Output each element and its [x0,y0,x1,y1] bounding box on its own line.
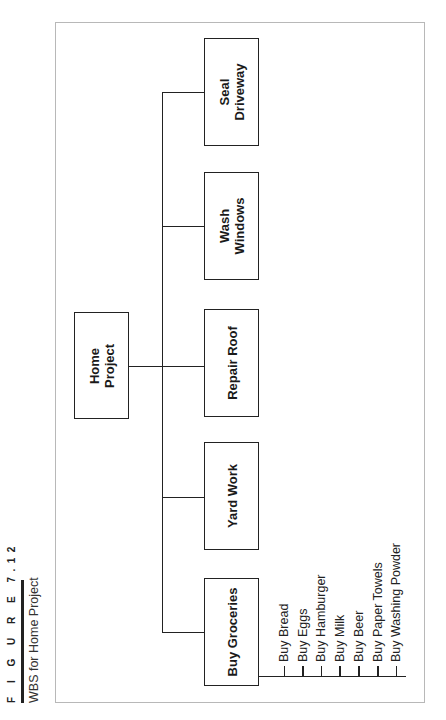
root-label-line2: Project [102,343,117,387]
grocery-item-buy-washing-powder: Buy Washing Powder [389,543,403,662]
node-label-line1: Buy Groceries [224,588,239,677]
node-label: Buy Groceries [224,588,239,677]
node-label-line2: Windows [232,198,247,255]
figure-title: WBS for Home Project [27,577,41,703]
grocery-item-buy-bread: Buy Bread [277,604,291,662]
branch-connector-seal-driveway [162,92,204,94]
item-tick [284,666,286,676]
node-label-line1: Seal [217,63,232,120]
wbs-root-home-project: Home Project [74,312,129,419]
node-label: Seal Driveway [217,63,247,120]
groceries-items-line [259,676,406,678]
grocery-item-buy-paper-towels: Buy Paper Towels [371,562,385,662]
node-label-line1: Repair Roof [224,326,239,400]
wbs-node-wash-windows: Wash Windows [204,172,259,280]
node-label: Repair Roof [224,326,239,400]
node-label-line2: Driveway [232,63,247,120]
root-label: Home Project [87,343,117,387]
grocery-item-buy-milk: Buy Milk [333,615,347,662]
wbs-node-buy-groceries: Buy Groceries [204,578,259,686]
branch-connector-wash-windows [162,226,204,228]
root-label-line1: Home [87,343,102,387]
grocery-item-buy-beer: Buy Beer [352,611,366,662]
root-connector [129,366,204,368]
node-label: Yard Work [224,464,239,528]
item-tick [321,666,323,676]
item-tick [302,666,304,676]
wbs-node-yard-work: Yard Work [204,442,259,550]
node-label-line1: Wash [217,198,232,255]
wbs-node-seal-driveway: Seal Driveway [204,38,259,146]
figure-number: F I G U R E 7.12 [6,541,17,703]
item-tick [358,666,360,676]
node-label-line1: Yard Work [224,464,239,528]
branch-connector-buy-groceries [162,632,204,634]
caption-divider [21,580,24,703]
wbs-node-repair-roof: Repair Roof [204,309,259,417]
grocery-item-buy-hamburger: Buy Hamburger [314,574,328,662]
wbs-trunk-line [162,92,164,633]
node-label: Wash Windows [217,198,247,255]
branch-connector-yard-work [162,497,204,499]
item-tick [377,666,379,676]
item-tick [339,666,341,676]
item-tick [396,666,398,676]
grocery-item-buy-eggs: Buy Eggs [296,608,310,662]
